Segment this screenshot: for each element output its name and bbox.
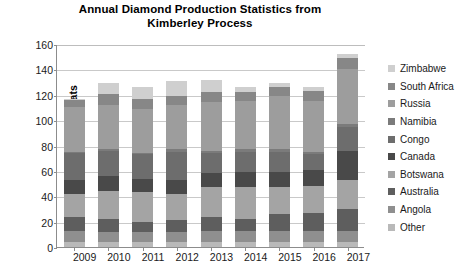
legend-item-russia[interactable]: Russia [388,95,468,113]
bar-segment-congo[interactable] [132,154,153,178]
bar-segment-russia[interactable] [303,101,324,152]
bar-segment-canada[interactable] [337,151,358,180]
bar-segment-russia[interactable] [132,109,153,153]
bar-segment-australia[interactable] [98,219,119,232]
bar-segment-congo[interactable] [64,153,85,180]
bar-2014[interactable] [235,87,256,247]
bar-segment-botswana[interactable] [132,192,153,221]
bar-segment-other[interactable] [132,242,153,247]
bar-segment-congo[interactable] [201,153,222,173]
bar-segment-congo[interactable] [269,152,290,172]
legend-item-zimbabwe[interactable]: Zimbabwe [388,60,468,78]
bar-segment-botswana[interactable] [201,187,222,216]
y-tick-label: 0 [23,243,53,253]
bar-segment-angola[interactable] [235,231,256,242]
bar-2013[interactable] [201,80,222,247]
bar-segment-angola[interactable] [303,231,324,242]
bar-segment-russia[interactable] [98,105,119,149]
bar-segment-congo[interactable] [166,152,187,180]
bar-segment-australia[interactable] [201,217,222,231]
bar-segment-other[interactable] [337,242,358,247]
bar-segment-russia[interactable] [166,105,187,149]
bar-segment-congo[interactable] [235,152,256,172]
legend-item-south-africa[interactable]: South Africa [388,78,468,96]
bar-segment-south-africa[interactable] [64,100,85,108]
legend-label: Angola [400,204,431,215]
legend-item-botswana[interactable]: Botswana [388,166,468,184]
bar-segment-canada[interactable] [269,172,290,187]
bar-segment-other[interactable] [269,242,290,247]
bar-segment-canada[interactable] [201,173,222,187]
bar-segment-angola[interactable] [166,232,187,242]
bar-2010[interactable] [98,83,119,247]
legend-item-namibia[interactable]: Namibia [388,113,468,131]
bar-segment-botswana[interactable] [98,191,119,219]
bar-segment-australia[interactable] [337,209,358,231]
bar-segment-australia[interactable] [64,217,85,231]
bar-segment-south-africa[interactable] [303,91,324,101]
bar-segment-zimbabwe[interactable] [98,83,119,93]
bar-segment-south-africa[interactable] [132,99,153,109]
bar-2009[interactable] [64,99,85,247]
bar-segment-australia[interactable] [269,214,290,230]
bar-segment-botswana[interactable] [269,187,290,214]
bar-2016[interactable] [303,87,324,247]
bar-segment-angola[interactable] [201,231,222,242]
bar-segment-russia[interactable] [235,101,256,149]
bar-segment-angola[interactable] [132,232,153,242]
bar-segment-canada[interactable] [303,170,324,186]
bar-segment-botswana[interactable] [337,180,358,209]
bar-segment-russia[interactable] [269,96,290,149]
bar-segment-south-africa[interactable] [98,94,119,105]
bar-segment-congo[interactable] [337,127,358,151]
bar-segment-canada[interactable] [98,176,119,191]
bar-segment-canada[interactable] [235,172,256,187]
bar-segment-south-africa[interactable] [235,92,256,101]
bar-segment-canada[interactable] [132,179,153,193]
legend-item-other[interactable]: Other [388,218,468,236]
bar-segment-angola[interactable] [64,231,85,242]
bar-segment-canada[interactable] [166,180,187,194]
bar-segment-other[interactable] [166,242,187,247]
bar-segment-other[interactable] [98,242,119,247]
bar-segment-other[interactable] [201,242,222,247]
bar-2011[interactable] [132,87,153,247]
bar-segment-botswana[interactable] [64,194,85,217]
bar-segment-angola[interactable] [98,232,119,242]
bar-segment-angola[interactable] [269,231,290,242]
legend-item-australia[interactable]: Australia [388,183,468,201]
bar-segment-botswana[interactable] [235,187,256,219]
bar-segment-congo[interactable] [98,151,119,176]
bar-segment-south-africa[interactable] [337,58,358,69]
bar-segment-other[interactable] [303,242,324,247]
bar-segment-australia[interactable] [132,222,153,232]
bar-2017[interactable] [337,54,358,247]
bar-segment-russia[interactable] [64,107,85,151]
y-tick-label: 100 [23,116,53,126]
legend-item-congo[interactable]: Congo [388,130,468,148]
bar-segment-russia[interactable] [201,102,222,150]
legend-item-angola[interactable]: Angola [388,201,468,219]
legend-item-canada[interactable]: Canada [388,148,468,166]
bar-segment-south-africa[interactable] [269,87,290,96]
bar-segment-russia[interactable] [337,69,358,124]
bar-segment-zimbabwe[interactable] [201,80,222,93]
bar-segment-south-africa[interactable] [166,96,187,105]
bar-segment-australia[interactable] [235,219,256,230]
bar-segment-south-africa[interactable] [201,92,222,102]
bar-2012[interactable] [166,81,187,247]
bar-segment-other[interactable] [64,242,85,247]
bar-segment-zimbabwe[interactable] [166,81,187,96]
bar-segment-congo[interactable] [303,154,324,169]
y-tick-mark [54,223,57,224]
bar-2015[interactable] [269,83,290,247]
bar-segment-australia[interactable] [166,220,187,231]
bar-segment-canada[interactable] [64,180,85,194]
bar-segment-other[interactable] [235,242,256,247]
y-tick-label: 40 [23,192,53,202]
bar-segment-zimbabwe[interactable] [132,87,153,98]
bar-segment-australia[interactable] [303,213,324,231]
bar-segment-angola[interactable] [337,231,358,242]
bar-segment-botswana[interactable] [166,194,187,221]
bar-segment-botswana[interactable] [303,186,324,213]
